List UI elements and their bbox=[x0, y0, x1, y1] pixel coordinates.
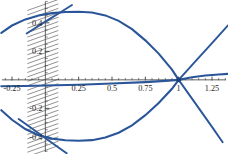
axis-hatch-line bbox=[27, 141, 58, 152]
series-near-zero-curve bbox=[179, 74, 228, 80]
axis-hatch-line bbox=[27, 66, 58, 77]
axis-hatch-line bbox=[27, 75, 58, 86]
chart-canvas: -0.250.250.50.7511.25 0.40.2-0.2-0.4 bbox=[0, 0, 228, 154]
x-tick-label: 1 bbox=[177, 84, 181, 93]
axis-hatch-line bbox=[27, 88, 58, 99]
y-tick-label: -0.4 bbox=[29, 133, 42, 142]
axis-hatch-line bbox=[27, 0, 58, 10]
x-tick-label: 1.25 bbox=[205, 84, 219, 93]
axis-hatch-line bbox=[27, 35, 58, 46]
axis-hatch-line bbox=[27, 30, 58, 41]
axis-hatch-line bbox=[27, 93, 58, 104]
y-tick-label: -0.2 bbox=[29, 104, 42, 113]
axis-hatch-line bbox=[27, 61, 58, 72]
convergence-point-marker bbox=[176, 77, 181, 82]
x-tick-label: 0.25 bbox=[72, 84, 86, 93]
series-lower-tangent-line bbox=[19, 119, 67, 153]
y-tick-label: 0.2 bbox=[32, 47, 42, 56]
x-tick-label: 0.75 bbox=[138, 84, 152, 93]
x-tick-label: 0.5 bbox=[107, 84, 117, 93]
x-tick-label: -0.25 bbox=[3, 84, 20, 93]
y-tick-label: 0.4 bbox=[32, 19, 42, 28]
axis-hatch-line bbox=[27, 57, 58, 68]
series-rising-line bbox=[179, 25, 228, 79]
plot-figure: -0.250.250.50.7511.25 0.40.2-0.2-0.4 bbox=[0, 0, 228, 154]
y-axis-tick-labels: 0.40.2-0.2-0.4 bbox=[29, 19, 42, 142]
axis-hatch-line bbox=[27, 115, 58, 126]
